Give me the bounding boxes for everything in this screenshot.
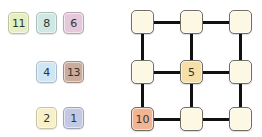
board-node-r2c1[interactable] — [180, 107, 203, 131]
board-node-r1c0[interactable] — [131, 60, 154, 84]
board-node-r0c0[interactable] — [131, 10, 154, 34]
board-node-r2c2[interactable] — [229, 107, 252, 131]
board-node-r1c2[interactable] — [229, 60, 252, 84]
board-node-r2c0[interactable]: 10 — [131, 107, 154, 131]
board-node-r1c1[interactable]: 5 — [180, 60, 203, 84]
board-node-r0c2[interactable] — [229, 10, 252, 34]
game-board: 510 — [0, 0, 262, 137]
board-node-r0c1[interactable] — [180, 10, 203, 34]
